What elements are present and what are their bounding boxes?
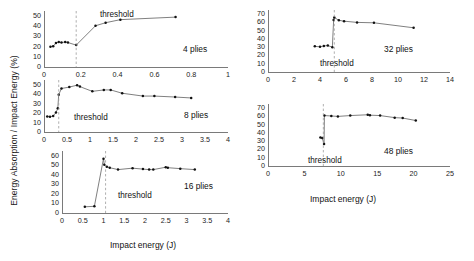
data-point bbox=[142, 95, 145, 98]
data-line bbox=[50, 17, 175, 47]
series-label-32-plies: 32 plies bbox=[384, 44, 413, 54]
y-tick-label: 50 bbox=[245, 26, 265, 35]
x-tick-label: 12 bbox=[414, 75, 434, 84]
y-tick-label: 70 bbox=[245, 103, 265, 112]
data-point bbox=[194, 168, 197, 171]
data-point bbox=[415, 119, 418, 122]
threshold-label-32-plies: threshold bbox=[320, 59, 354, 68]
data-point bbox=[94, 25, 97, 28]
series-32-plies bbox=[268, 10, 450, 72]
data-point bbox=[52, 45, 55, 48]
data-point bbox=[401, 117, 404, 120]
data-point bbox=[174, 96, 177, 99]
data-point bbox=[91, 90, 94, 93]
series-label-8-plies: 8 plies bbox=[184, 110, 208, 120]
y-tick-label: 20 bbox=[21, 42, 41, 51]
y-tick-label: 0 bbox=[245, 161, 265, 170]
chart-panel-16-plies: 00.511.522.533.54010203040506016 pliesth… bbox=[62, 151, 228, 213]
y-tick-label: 0 bbox=[21, 127, 41, 136]
x-tick-label: 2 bbox=[126, 135, 146, 144]
data-point bbox=[64, 41, 67, 44]
y-tick-label: 0 bbox=[245, 67, 265, 76]
data-point bbox=[121, 92, 124, 95]
y-tick-label: 30 bbox=[245, 136, 265, 145]
threshold-label-16-plies: threshold bbox=[118, 191, 152, 200]
data-point bbox=[319, 46, 322, 49]
data-point bbox=[323, 45, 326, 48]
data-point bbox=[349, 114, 352, 117]
data-point bbox=[174, 16, 177, 19]
x-tick-label: 25 bbox=[440, 169, 460, 178]
x-tick-label: 0 bbox=[34, 70, 54, 79]
x-tick-label: 0.5 bbox=[73, 216, 93, 225]
x-tick-label: 0.5 bbox=[57, 135, 77, 144]
y-tick-label: 10 bbox=[245, 59, 265, 68]
data-point bbox=[103, 89, 106, 92]
series-8-plies bbox=[44, 80, 228, 132]
x-tick-label: 3 bbox=[177, 216, 197, 225]
x-tick-label: 3 bbox=[172, 135, 192, 144]
y-tick-label: 0 bbox=[21, 62, 41, 71]
x-tick-label: 10 bbox=[388, 75, 408, 84]
x-tick-label: 5 bbox=[294, 169, 314, 178]
data-point bbox=[60, 87, 63, 90]
data-point bbox=[179, 167, 182, 170]
x-tick-label: 10 bbox=[331, 169, 351, 178]
x-tick-label: 0 bbox=[258, 169, 278, 178]
y-tick-label: 30 bbox=[21, 31, 41, 40]
y-tick-label: 40 bbox=[245, 34, 265, 43]
data-point bbox=[52, 115, 55, 118]
y-tick-label: 50 bbox=[21, 11, 41, 20]
series-label-16-plies: 16 plies bbox=[184, 181, 213, 191]
data-point bbox=[102, 157, 105, 160]
data-point bbox=[190, 97, 193, 100]
data-point bbox=[331, 46, 334, 49]
x-tick-label: 2.5 bbox=[156, 216, 176, 225]
threshold-label-8-plies: threshold bbox=[74, 113, 108, 122]
x-tick-label: 6 bbox=[336, 75, 356, 84]
data-point bbox=[366, 114, 369, 117]
y-tick-label: 60 bbox=[245, 111, 265, 120]
data-point bbox=[76, 84, 79, 87]
x-tick-label: 1.5 bbox=[114, 216, 134, 225]
data-point bbox=[142, 168, 145, 171]
data-point bbox=[68, 86, 71, 89]
threshold-label-48-plies: threshold bbox=[308, 156, 342, 165]
x-axis-line bbox=[44, 132, 228, 133]
data-point bbox=[343, 20, 346, 23]
x-tick-label: 3.5 bbox=[195, 135, 215, 144]
data-point bbox=[49, 45, 52, 48]
figure-energy-absorption: Energy Absorption / Impact Energy (%) 00… bbox=[0, 0, 474, 261]
x-tick-label: 0.4 bbox=[108, 70, 128, 79]
data-point bbox=[323, 143, 326, 146]
x-tick-label: 1 bbox=[94, 216, 114, 225]
y-tick-label: 10 bbox=[245, 153, 265, 162]
data-point bbox=[84, 206, 87, 209]
x-tick-label: 20 bbox=[404, 169, 424, 178]
x-tick-label: 1 bbox=[80, 135, 100, 144]
data-point bbox=[117, 168, 120, 171]
x-axis-line bbox=[268, 166, 450, 167]
y-tick-label: 40 bbox=[39, 170, 59, 179]
data-point bbox=[46, 115, 49, 118]
y-tick-label: 40 bbox=[245, 128, 265, 137]
threshold-label-4-plies: threshold bbox=[100, 10, 134, 19]
y-tick-label: 0 bbox=[39, 208, 59, 217]
data-point bbox=[152, 168, 155, 171]
y-tick-label: 50 bbox=[39, 160, 59, 169]
data-point bbox=[55, 42, 58, 45]
data-point bbox=[412, 27, 415, 30]
data-point bbox=[148, 168, 151, 171]
x-tick-label: 4 bbox=[310, 75, 330, 84]
data-point bbox=[57, 41, 60, 44]
x-tick-label: 0.8 bbox=[181, 70, 201, 79]
data-point bbox=[131, 167, 134, 170]
data-line bbox=[47, 85, 191, 117]
data-point bbox=[327, 44, 330, 47]
x-axis-line bbox=[62, 213, 228, 214]
data-line bbox=[320, 115, 415, 144]
x-tick-label: 4 bbox=[218, 135, 238, 144]
y-tick-label: 20 bbox=[39, 189, 59, 198]
y-tick-label: 10 bbox=[21, 118, 41, 127]
x-tick-label: 2 bbox=[284, 75, 304, 84]
